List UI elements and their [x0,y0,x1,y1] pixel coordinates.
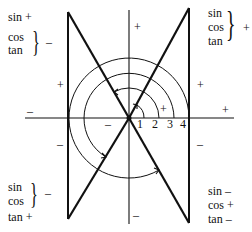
bl-cos-label: cos [8,195,24,208]
sign-x-right: + [222,104,229,116]
tr-brace-sign: + [243,22,250,34]
tick-4: 4 [180,118,186,131]
br-cos-label: cos + [208,199,234,212]
diagonal-upper-left [68,12,129,118]
bl-tan-label: tan + [8,211,32,224]
sign-left-lower-inner: – [57,138,63,150]
origin-dot [127,116,132,121]
sign-inner-plus: + [160,103,167,115]
sign-y-top: + [134,21,141,33]
trig-quadrant-diagram: sin + cos tan } – sin cos tan } + sin co… [0,0,252,232]
brace-icon: } [30,178,38,208]
tick-2: 2 [152,118,158,131]
sign-left-upper-inner: + [57,79,64,91]
tl-brace-sign: – [46,36,52,48]
brace-icon: } [226,9,236,39]
brace-icon: } [32,26,40,56]
br-sin-label: sin – [208,185,231,198]
sign-right-lower: – [197,138,203,150]
bl-brace-sign: – [45,187,51,199]
tick-3: 3 [167,118,173,131]
tr-sin-label: sin [208,7,222,20]
sign-inner-minus: – [105,118,111,130]
tr-tan-label: tan [208,35,223,48]
tr-cos-label: cos [208,21,224,34]
tl-tan-label: tan [8,44,23,57]
tl-sin-label: sin + [8,11,32,24]
sign-right-upper: + [197,79,204,91]
diagonal-lower-left [68,118,129,219]
bl-sin-label: sin [8,181,22,194]
sign-y-bottom: – [133,209,139,221]
sign-x-left: – [27,105,33,117]
br-tan-label: tan – [208,213,232,226]
tick-1: 1 [137,118,143,131]
